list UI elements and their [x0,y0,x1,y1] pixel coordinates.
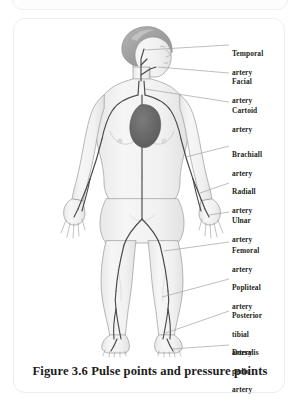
label-line-3: artery [232,385,252,394]
label-line-1: Ulnar [232,216,251,225]
left-hand-shape [64,199,85,225]
label-line-1: Femoral [232,246,259,255]
label-line-1: Radiall [232,187,256,196]
label-line-2: artery [232,265,252,274]
leader-facial [158,67,229,73]
label-line-2: artery [232,125,252,134]
figure-card: Temporal artery Facial artery Cartoid ar… [13,18,285,393]
label-line-1: Temporal [232,49,263,58]
label-line-1: Brachiall [232,150,262,159]
label-line-2: artery [232,169,252,178]
label-brachiall-artery: Brachiall artery [232,141,262,178]
label-cartoid-artery: Cartoid artery [232,97,257,134]
anatomical-diagram: Temporal artery Facial artery Cartoid ar… [14,19,286,359]
label-line-1: Posterior [232,311,262,320]
card-top-edge-sliver [12,0,288,10]
label-femoral-artery: Femoral artery [232,237,259,274]
label-line-1: Facial [232,77,252,86]
label-line-1: Popliteal [232,283,261,292]
label-line-1: Cartoid [232,106,257,115]
figure-caption: Figure 3.6 Pulse points and pressure poi… [14,364,286,379]
left-foot-shape [102,335,130,353]
label-line-1: Dorsalis [232,348,259,357]
right-foot-shape [155,335,183,353]
label-line-2: tibial [232,330,249,339]
